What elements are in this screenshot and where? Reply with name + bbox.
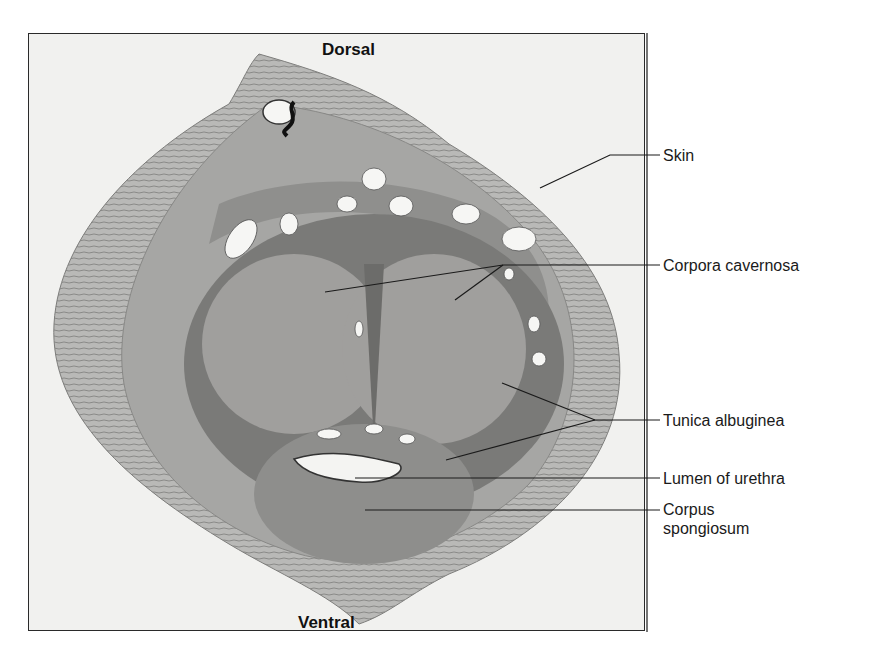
label-corpus-spongiosum-line-2: spongiosum <box>663 519 749 538</box>
penis-cross-section-image <box>29 34 645 631</box>
micrograph <box>28 33 645 631</box>
label-lumen-of-urethra: Lumen of urethra <box>663 469 785 488</box>
label-corpus-spongiosum: Corpus spongiosum <box>663 500 749 538</box>
dorsal-label: Dorsal <box>322 40 375 60</box>
label-corpora-cavernosa: Corpora cavernosa <box>663 256 799 275</box>
label-tunica-albuginea: Tunica albuginea <box>663 411 784 430</box>
histology-figure: Dorsal Ventral Skin Corpora cavernosa Tu… <box>0 0 874 660</box>
ventral-label: Ventral <box>298 613 355 633</box>
label-skin: Skin <box>663 146 694 165</box>
label-corpus-spongiosum-line-1: Corpus <box>663 500 749 519</box>
